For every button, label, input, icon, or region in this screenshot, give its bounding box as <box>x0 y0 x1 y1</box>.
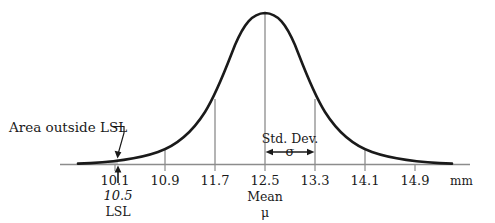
x-axis-unit-label: mm <box>450 175 473 187</box>
lsl-name-label: LSL <box>105 206 130 219</box>
callout-arrow-head <box>115 151 122 159</box>
x-tick-label-10-9: 10.9 <box>151 174 180 187</box>
sigma-symbol-label: σ <box>286 145 295 158</box>
mean-symbol-label: μ <box>261 207 269 220</box>
normal-distribution-chart: Area outside LSL Std. Dev. σ 10.1 10.9 1… <box>0 0 495 223</box>
x-tick-label-11-7: 11.7 <box>201 174 230 187</box>
x-tick-label-14-1: 14.1 <box>351 174 380 187</box>
lsl-value-label: 10.5 <box>104 189 133 202</box>
std-dev-arrow-head-left <box>266 149 274 156</box>
mean-name-label: Mean <box>247 191 283 204</box>
x-tick-label-10-1: 10.1 <box>101 174 130 187</box>
std-dev-arrow-head-right <box>307 149 315 156</box>
x-tick-label-12-5: 12.5 <box>251 174 280 187</box>
area-outside-lsl-label: Area outside LSL <box>9 121 127 135</box>
lsl-arrow-head <box>115 166 122 173</box>
x-tick-label-14-9: 14.9 <box>401 174 430 187</box>
x-tick-label-13-3: 13.3 <box>301 174 330 187</box>
